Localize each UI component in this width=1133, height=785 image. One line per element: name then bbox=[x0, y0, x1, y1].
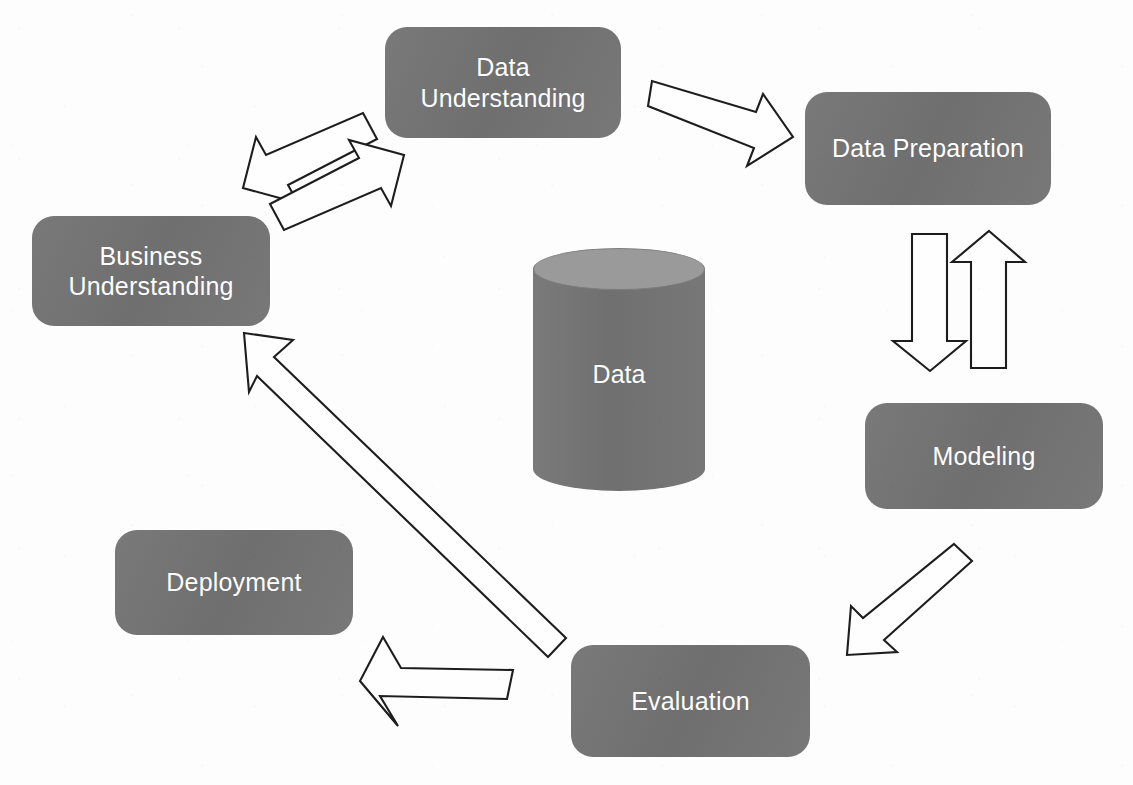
arrow-data-understanding-to-data-preparation bbox=[648, 81, 793, 166]
arrow-modeling-to-data-preparation bbox=[952, 231, 1025, 368]
crisp-dm-diagram: Data Understanding Data Preparation Busi… bbox=[0, 0, 1133, 785]
arrow-evaluation-to-business-understanding bbox=[244, 333, 566, 657]
arrow-modeling-to-evaluation bbox=[847, 544, 972, 655]
arrow-evaluation-to-deployment bbox=[360, 637, 513, 726]
arrow-data-preparation-to-modeling bbox=[893, 234, 966, 371]
arrow-layer bbox=[0, 0, 1133, 785]
